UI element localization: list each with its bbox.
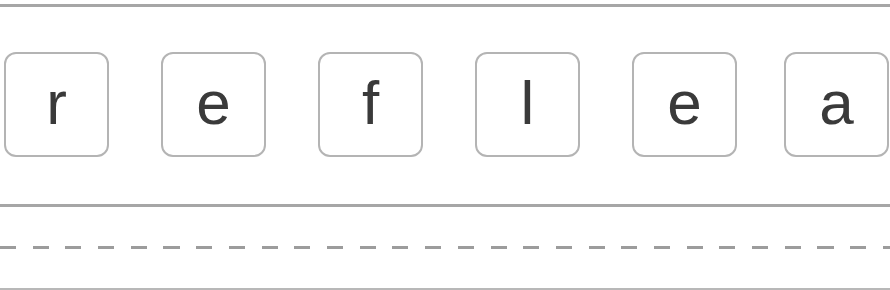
letter-tile-4[interactable]: l [475, 52, 580, 157]
letter-tile-2[interactable]: e [161, 52, 266, 157]
letter-tile-1[interactable]: r [4, 52, 109, 157]
guide-top-line [0, 204, 890, 207]
guide-midline-dashed [0, 246, 890, 249]
tile-letter: a [819, 72, 853, 134]
letter-tile-6[interactable]: a [784, 52, 889, 157]
letter-tile-3[interactable]: f [318, 52, 423, 157]
tile-letter: f [362, 72, 379, 134]
tile-letter: e [667, 72, 701, 134]
letter-tile-5[interactable]: e [632, 52, 737, 157]
tile-letter: r [46, 72, 67, 134]
top-rule-line [0, 4, 890, 7]
tile-letter: l [521, 72, 535, 134]
tile-letter: e [196, 72, 230, 134]
